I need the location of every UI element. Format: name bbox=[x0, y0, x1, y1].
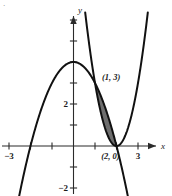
y-axis-label: y bbox=[77, 5, 82, 15]
y-tick-label-0: −2 bbox=[58, 183, 68, 193]
plot-canvas: −33−22 x y (1, 3) (2, 0) · bbox=[0, 0, 172, 196]
intersection-label-lower: (2, 0) bbox=[101, 151, 120, 161]
x-tick-label-5: 3 bbox=[136, 151, 141, 161]
x-tick-label-0: −3 bbox=[4, 151, 14, 161]
x-axis-arrowhead bbox=[148, 143, 156, 149]
corner-mark: · bbox=[3, 2, 5, 10]
intersection-label-upper: (1, 3) bbox=[102, 72, 121, 82]
x-axis-label: x bbox=[160, 141, 165, 151]
y-tick-label-3: 2 bbox=[64, 99, 69, 109]
graph-figure: −33−22 x y (1, 3) (2, 0) · bbox=[0, 0, 172, 196]
